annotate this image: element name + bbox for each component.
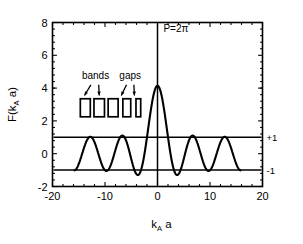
y-tick-label: 0 [41, 148, 47, 160]
x-tick-label: 10 [204, 190, 216, 202]
y-tick-label: 2 [41, 115, 47, 127]
level-label-plus1: +1 [267, 132, 278, 143]
x-tick-label: -10 [97, 190, 113, 202]
y-tick-label: 6 [41, 49, 47, 61]
bands-annotation: bands [82, 70, 109, 81]
figure-container: -20-1001020-202468 P=2πbandsgaps kA aF(k… [0, 0, 303, 244]
gaps-annotation: gaps [119, 70, 141, 81]
y-axis-title-main: F(k [6, 105, 18, 122]
y-tick-label: 4 [41, 82, 47, 94]
y-axis-title-tail: a) [6, 87, 18, 101]
chart-canvas: -20-1001020-202468 P=2πbandsgaps kA aF(k… [0, 0, 303, 244]
p-value-annotation: P=2π [163, 23, 188, 34]
y-tick-label: 8 [41, 17, 47, 29]
x-tick-label: 0 [154, 190, 160, 202]
y-tick-label: -2 [38, 181, 48, 193]
x-axis-title-tail: a [162, 218, 172, 230]
x-tick-label: 20 [256, 190, 268, 202]
level-label-minus1: -1 [267, 165, 275, 176]
